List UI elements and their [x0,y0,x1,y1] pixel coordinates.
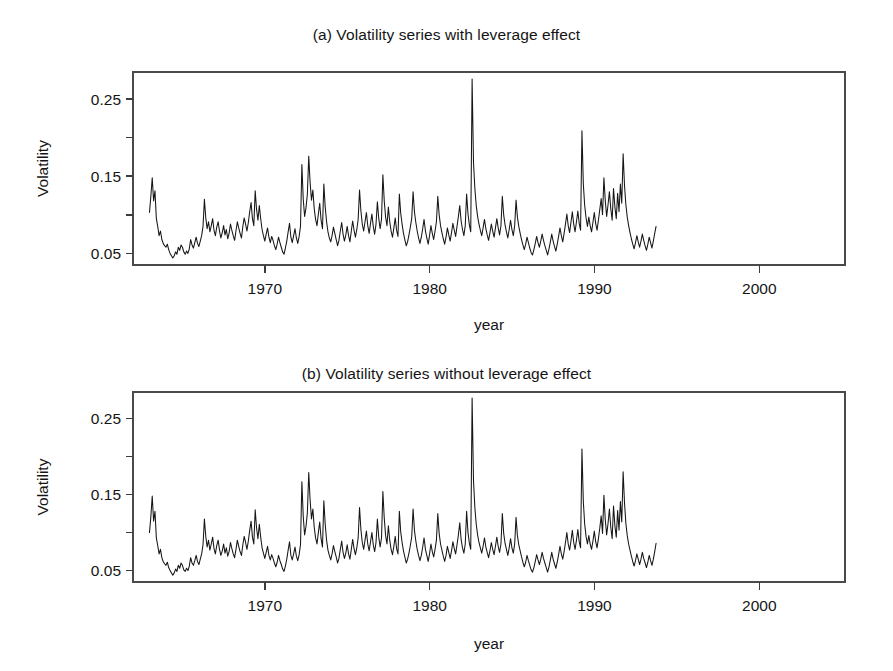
x-axis-tick-label: 2000 [742,597,777,614]
x-axis-title: year [474,316,504,333]
y-axis-tick-label: 0.15 [91,168,121,185]
x-axis-tick-label: 2000 [742,280,777,297]
data-series-line [149,79,656,258]
y-axis-tick-label: 0.25 [91,91,121,108]
y-axis-tick-label: 0.05 [91,562,121,579]
chart-panel-b: (b) Volatility series without leverage e… [0,340,893,671]
x-axis-tick-label: 1990 [577,280,612,297]
panel-a-plot: 0.050.150.25Volatility1970198019902000ye… [0,0,893,340]
x-axis-tick-label: 1990 [577,597,612,614]
y-axis-tick-label: 0.25 [91,410,121,427]
chart-panel-a: (a) Volatility series with leverage effe… [0,0,893,340]
x-axis-tick-label: 1970 [248,280,283,297]
x-axis-tick-label: 1980 [412,280,447,297]
y-axis-title: Volatility [34,458,51,515]
panel-b-plot: 0.050.150.25Volatility1970198019902000ye… [0,340,893,671]
x-axis-tick-label: 1970 [248,597,283,614]
x-axis-tick-label: 1980 [412,597,447,614]
x-axis-title: year [474,635,504,652]
volatility-figure: (a) Volatility series with leverage effe… [0,0,893,671]
data-series-line [149,398,656,575]
y-axis-title: Volatility [34,140,51,197]
y-axis-tick-label: 0.05 [91,245,121,262]
y-axis-tick-label: 0.15 [91,486,121,503]
